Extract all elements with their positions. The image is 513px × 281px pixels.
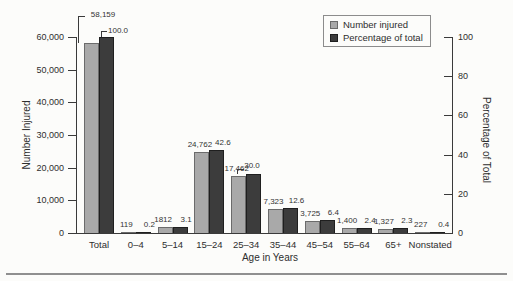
bar-percent [136, 232, 151, 233]
bar-value-label: 42.6 [203, 139, 243, 147]
left-axis-tick-mark [68, 70, 76, 71]
legend-swatch-icon [330, 34, 338, 42]
bar-count [378, 229, 393, 233]
bar-count [84, 43, 99, 233]
left-axis-tick-mark [68, 37, 76, 38]
x-axis-title: Age in Years [170, 252, 370, 264]
x-axis-baseline [76, 233, 453, 234]
injury-bar-chart-figure: 010,00020,00030,00040,00050,00060,000020… [0, 0, 513, 281]
bar-count [342, 228, 357, 233]
bar-count [194, 152, 209, 233]
left-axis-tick-mark [68, 135, 76, 136]
bar-count [121, 232, 136, 233]
left-axis-line [76, 37, 77, 234]
left-axis-tick-mark [68, 168, 76, 169]
legend-box: Number injuredPercentage of total [323, 15, 431, 47]
legend-item: Percentage of total [330, 32, 430, 43]
left-axis-tick-mark [68, 102, 76, 103]
right-axis-line [452, 37, 453, 234]
right-axis-tick-mark [444, 76, 452, 77]
legend-swatch-icon [330, 21, 338, 29]
bar-count [231, 176, 246, 233]
right-axis-tick-mark [444, 115, 452, 116]
x-category-label: Nonstated [398, 240, 462, 250]
callout-line [78, 16, 79, 43]
bar-count [305, 221, 320, 233]
bar-value-label: 12.6 [277, 197, 317, 205]
bar-value-label: 58,159 [83, 11, 123, 19]
right-axis-tick-mark [444, 37, 452, 38]
figure-bottom-rule [6, 273, 507, 275]
bar-percent [357, 228, 372, 233]
left-axis-tick-mark [68, 233, 76, 234]
right-axis-tick-mark [444, 233, 452, 234]
bar-percent [173, 227, 188, 233]
bar-value-label: 100.0 [98, 27, 138, 35]
bar-percent [99, 37, 114, 233]
bar-percent [209, 150, 224, 233]
legend-item: Number injured [330, 19, 430, 30]
bar-count [415, 232, 430, 233]
legend-label: Percentage of total [343, 33, 423, 43]
bar-count [268, 209, 283, 233]
bar-count [158, 227, 173, 233]
left-axis-title: Number Injured [21, 35, 33, 235]
right-axis-tick-mark [444, 155, 452, 156]
right-axis-tick-mark [444, 194, 452, 195]
legend-label: Number injured [343, 20, 408, 30]
chart-area: 010,00020,00030,00040,00050,00060,000020… [0, 0, 513, 281]
bar-value-label: 0.4 [424, 221, 464, 229]
bar-percent [430, 232, 445, 233]
left-axis-tick-mark [68, 200, 76, 201]
right-axis-title: Percentage of Total [480, 40, 492, 240]
bar-value-label: 30.0 [232, 162, 272, 170]
